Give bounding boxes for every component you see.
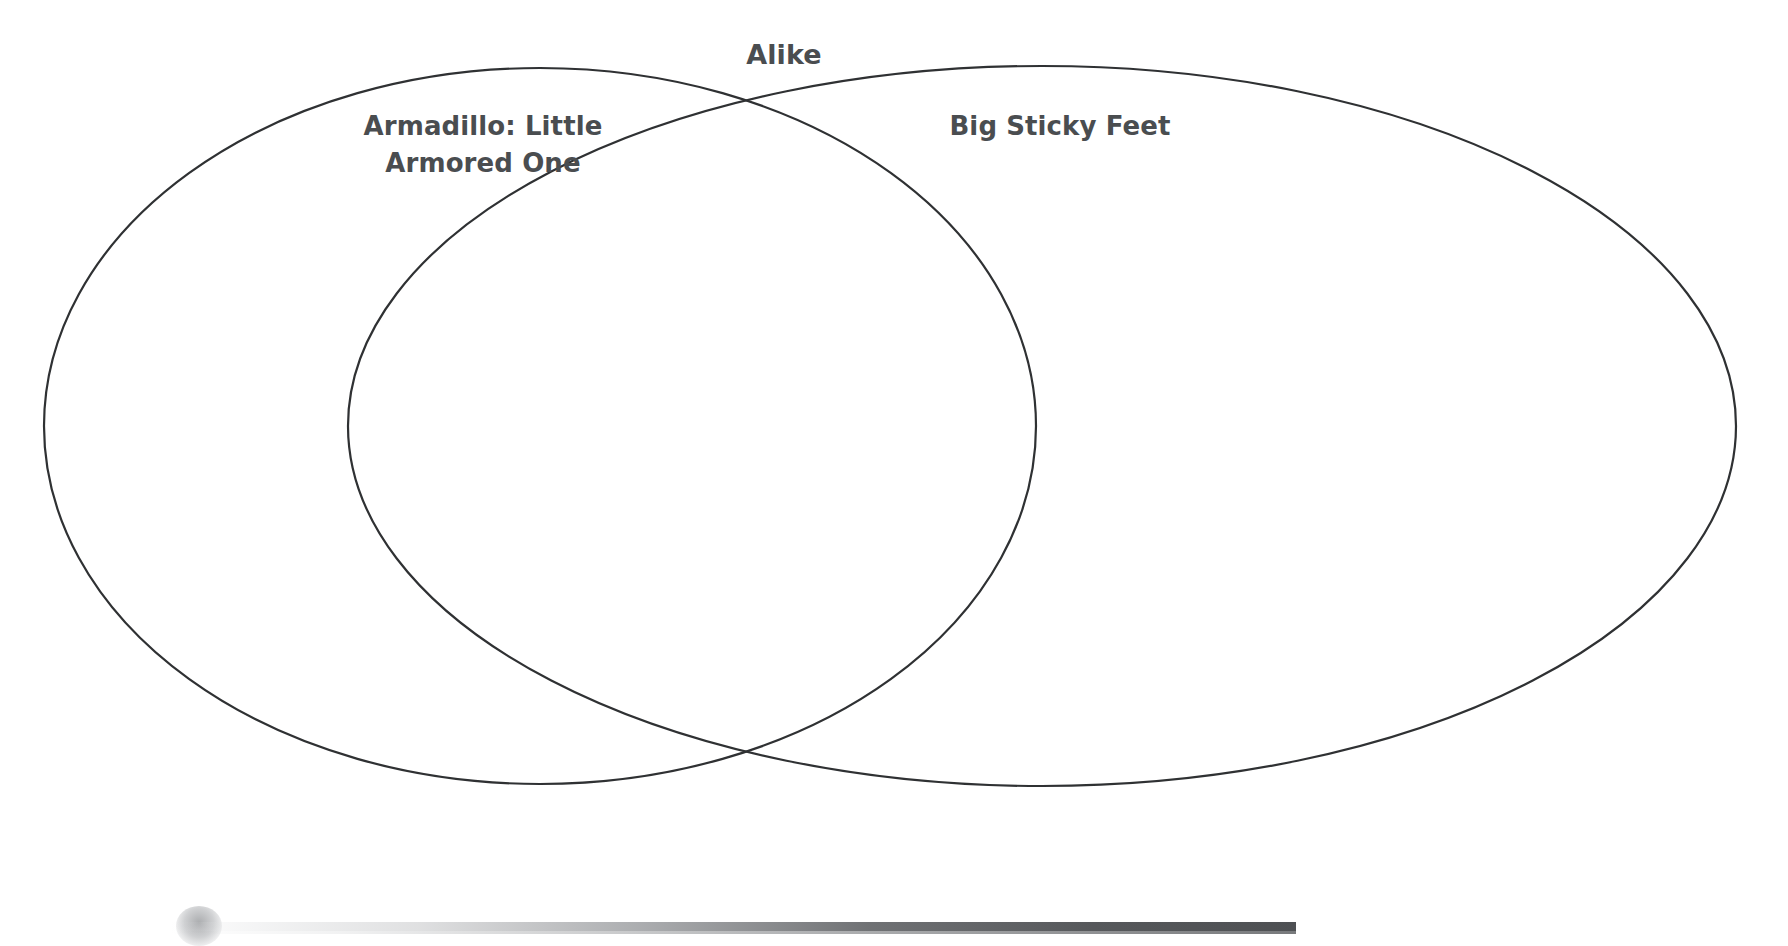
left-set-label-line-1: Armadillo: Little: [364, 111, 603, 141]
right-set-label: Big Sticky Feet: [900, 108, 1220, 145]
left-set-label: Armadillo: Little Armored One: [300, 108, 666, 182]
left-set-label-line-2: Armored One: [385, 148, 580, 178]
intersection-label-alike: Alike: [666, 36, 902, 74]
